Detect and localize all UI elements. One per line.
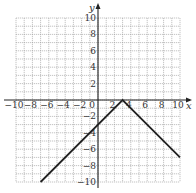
y-tick-label: −8 (83, 161, 97, 171)
y-tick-label: 8 (90, 29, 96, 39)
x-tick-label: −6 (40, 100, 54, 110)
y-axis-arrow-icon (96, 3, 101, 9)
x-tick-label: −10 (5, 100, 24, 110)
y-tick-label: −6 (83, 144, 97, 154)
y-axis-label: y (88, 2, 95, 13)
x-tick-label: 6 (142, 100, 148, 110)
x-tick-label: −4 (57, 100, 71, 110)
x-tick-label: 0 (89, 100, 95, 110)
x-tick-label: 8 (159, 100, 165, 110)
y-tick-label: 6 (90, 46, 96, 56)
x-tick-labels: −10−8−6−4−20246810 (5, 100, 184, 110)
y-tick-label: 4 (90, 62, 96, 72)
y-tick-label: −2 (83, 111, 96, 121)
x-tick-label: 10 (172, 100, 184, 110)
x-tick-label: −8 (24, 100, 38, 110)
y-tick-label: 10 (85, 13, 97, 23)
x-axis-label: x (186, 100, 192, 111)
y-tick-label: −10 (77, 177, 96, 187)
y-tick-label: 2 (90, 79, 96, 89)
x-tick-label: −2 (73, 100, 86, 110)
coordinate-plane: x y −10−8−6−4−20246810 108642−2−4−6−8−10 (0, 0, 196, 193)
